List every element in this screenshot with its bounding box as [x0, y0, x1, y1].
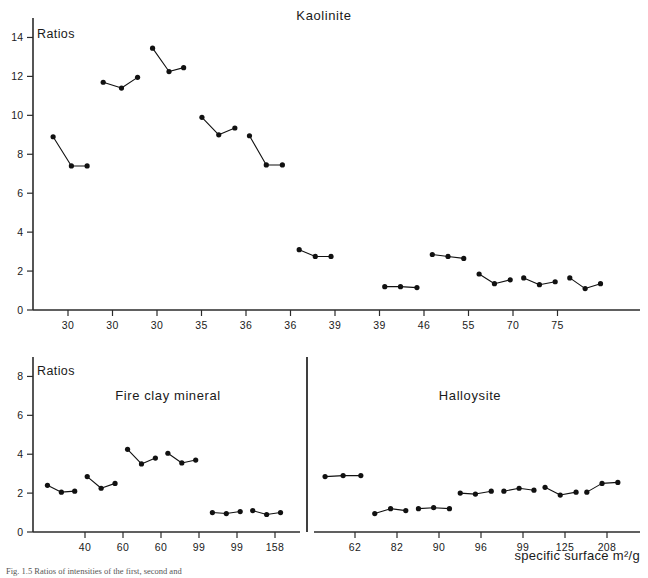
- halloysite-datapoint: [388, 506, 393, 511]
- halloysite-datapoint: [431, 505, 436, 510]
- kaolinite-datapoint: [119, 85, 124, 90]
- fireclay-datapoint: [153, 456, 158, 461]
- figure-container: Kaolinite Ratios 02468101214 30303035363…: [0, 0, 648, 578]
- halloysite-datapoint: [458, 491, 463, 496]
- kaolinite-xtick-label: 36: [284, 319, 296, 331]
- fireclay-xtick-label: 40: [79, 541, 91, 553]
- fireclay-datapoint: [125, 447, 130, 452]
- kaolinite-series: [51, 46, 604, 292]
- kaolinite-datapoint: [135, 75, 140, 80]
- kaolinite-datapoint: [199, 115, 204, 120]
- fireclay-x-ticks: 4060609999158: [79, 532, 285, 553]
- kaolinite-datapoint: [430, 252, 435, 257]
- kaolinite-ytick-label: 4: [17, 226, 23, 238]
- halloysite-datapoint: [558, 492, 563, 497]
- halloysite-datapoint: [599, 481, 604, 486]
- panel-halloysite: Halloysite 6282909699125208: [314, 388, 640, 553]
- halloysite-datapoint: [322, 474, 327, 479]
- halloysite-datapoint: [517, 486, 522, 491]
- kaolinite-datapoint: [313, 254, 318, 259]
- fireclay-ytick-label: 0: [17, 526, 23, 538]
- kaolinite-ytick-label: 0: [17, 304, 23, 316]
- halloysite-datapoint: [372, 511, 377, 516]
- kaolinite-ytick-label: 14: [11, 31, 23, 43]
- kaolinite-datapoint: [508, 277, 513, 282]
- kaolinite-xtick-label: 39: [373, 319, 385, 331]
- kaolinite-datapoint: [297, 247, 302, 252]
- kaolinite-x-ticks: 303030353636393946557075: [62, 310, 564, 331]
- kaolinite-xtick-label: 55: [462, 319, 474, 331]
- kaolinite-ylabel: Ratios: [37, 27, 75, 41]
- kaolinite-datapoint: [461, 256, 466, 261]
- kaolinite-datapoint: [280, 162, 285, 167]
- kaolinite-datapoint: [583, 286, 588, 291]
- kaolinite-ytick-label: 12: [11, 70, 23, 82]
- halloysite-datapoint: [531, 488, 536, 493]
- kaolinite-datapoint: [216, 132, 221, 137]
- fireclay-xtick-label: 60: [117, 541, 129, 553]
- kaolinite-datapoint: [85, 163, 90, 168]
- kaolinite-datapoint: [398, 284, 403, 289]
- kaolinite-ytick-label: 2: [17, 265, 23, 277]
- fireclay-datapoint: [238, 509, 243, 514]
- kaolinite-datapoint: [150, 46, 155, 51]
- fireclay-y-ticks: 02468: [17, 370, 33, 538]
- kaolinite-datapoint: [382, 284, 387, 289]
- halloysite-datapoint: [403, 508, 408, 513]
- fireclay-datapoint: [224, 511, 229, 516]
- halloysite-datapoint: [615, 480, 620, 485]
- kaolinite-ytick-label: 10: [11, 109, 23, 121]
- kaolinite-ytick-label: 6: [17, 187, 23, 199]
- kaolinite-xtick-label: 46: [418, 319, 430, 331]
- fireclay-title: Fire clay mineral: [115, 388, 221, 403]
- kaolinite-group-line: [53, 137, 87, 166]
- fireclay-datapoint: [250, 508, 255, 513]
- kaolinite-datapoint: [492, 281, 497, 286]
- kaolinite-xtick-label: 39: [329, 319, 341, 331]
- fireclay-series: [45, 447, 283, 517]
- kaolinite-ytick-label: 8: [17, 148, 23, 160]
- kaolinite-datapoint: [247, 133, 252, 138]
- kaolinite-datapoint: [181, 65, 186, 70]
- kaolinite-datapoint: [328, 254, 333, 259]
- halloysite-datapoint: [584, 490, 589, 495]
- fireclay-xtick-label: 99: [231, 541, 243, 553]
- kaolinite-datapoint: [51, 134, 56, 139]
- kaolinite-datapoint: [69, 163, 74, 168]
- kaolinite-datapoint: [553, 279, 558, 284]
- kaolinite-xtick-label: 30: [106, 319, 118, 331]
- kaolinite-y-ticks: 02468101214: [11, 31, 33, 316]
- fireclay-datapoint: [112, 481, 117, 486]
- fireclay-xtick-label: 158: [266, 541, 285, 553]
- fireclay-datapoint: [264, 512, 269, 517]
- halloysite-datapoint: [358, 473, 363, 478]
- fireclay-ytick-label: 8: [17, 370, 23, 382]
- fireclay-datapoint: [210, 510, 215, 515]
- halloysite-datapoint: [573, 490, 578, 495]
- kaolinite-datapoint: [567, 275, 572, 280]
- kaolinite-datapoint: [445, 254, 450, 259]
- kaolinite-datapoint: [537, 282, 542, 287]
- halloysite-datapoint: [416, 506, 421, 511]
- fireclay-xtick-label: 99: [193, 541, 205, 553]
- halloysite-datapoint: [341, 473, 346, 478]
- figure-caption: Fig. 1.5 Ratios of intensities of the fi…: [6, 566, 182, 576]
- kaolinite-xtick-label: 35: [195, 319, 207, 331]
- halloysite-datapoint: [473, 491, 478, 496]
- fireclay-datapoint: [278, 510, 283, 515]
- kaolinite-datapoint: [414, 285, 419, 290]
- panel-kaolinite: Kaolinite Ratios 02468101214 30303035363…: [11, 8, 640, 331]
- kaolinite-group-line: [153, 48, 184, 71]
- clay-mineral-ratio-figure: Kaolinite Ratios 02468101214 30303035363…: [0, 0, 648, 578]
- fireclay-datapoint: [165, 451, 170, 456]
- kaolinite-datapoint: [477, 271, 482, 276]
- kaolinite-datapoint: [264, 162, 269, 167]
- fireclay-datapoint: [139, 461, 144, 466]
- fireclay-datapoint: [45, 483, 50, 488]
- halloysite-datapoint: [447, 506, 452, 511]
- fireclay-ytick-label: 2: [17, 487, 23, 499]
- halloysite-datapoint: [542, 485, 547, 490]
- halloysite-series: [322, 473, 620, 516]
- fireclay-datapoint: [59, 490, 64, 495]
- fireclay-datapoint: [72, 489, 77, 494]
